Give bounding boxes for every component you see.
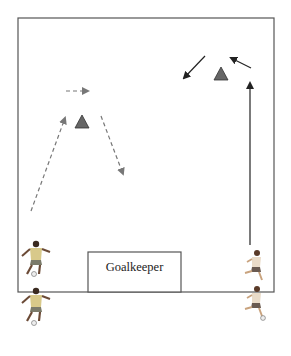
pass-arrow-down-right <box>101 116 123 174</box>
run-arrow-up-left <box>231 58 251 68</box>
player-icon <box>22 288 50 326</box>
pass-arrow-up-left <box>31 118 65 211</box>
player-icon <box>22 241 50 277</box>
goalkeeper-box: Goalkeeper <box>88 252 181 292</box>
cone-icon <box>75 115 89 128</box>
player-icon <box>245 250 262 280</box>
run-arrow-down-left <box>184 56 205 78</box>
goalkeeper-label: Goalkeeper <box>106 260 164 274</box>
player-icon <box>245 286 265 320</box>
drill-diagram: Goalkeeper <box>0 0 291 356</box>
field-boundary <box>18 18 274 292</box>
cone-icon <box>214 67 228 80</box>
